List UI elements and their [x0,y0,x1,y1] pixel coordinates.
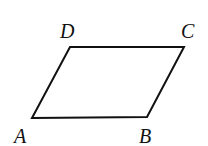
vertex-label-b: B [139,125,151,146]
diagram-canvas: A B C D [0,0,208,146]
parallelogram-abcd [32,47,184,118]
parallelogram-figure: A B C D [0,0,208,146]
vertex-label-a: A [12,125,27,146]
vertex-label-c: C [181,20,195,42]
vertex-label-d: D [59,20,75,42]
